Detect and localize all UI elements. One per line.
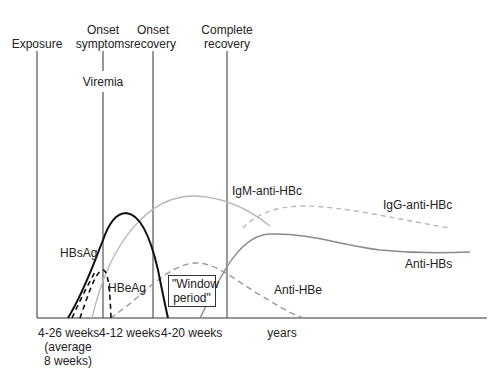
window-period-box: "Window period" — [168, 275, 216, 307]
onset-symptoms-label-line1: Onset — [74, 23, 132, 37]
interval-1-line3: 8 weeks) — [38, 354, 98, 368]
igg-anti-hbc-label: IgG-anti-HBc — [383, 198, 452, 212]
onset-recovery-label: Onset recovery — [128, 23, 178, 51]
complete-recovery-label: Complete recovery — [197, 23, 257, 51]
exposure-label: Exposure — [6, 37, 68, 51]
onset-symptoms-label-line2: symptoms — [74, 37, 132, 51]
interval-years: years — [262, 326, 302, 340]
hbeag-label: HBeAg — [108, 281, 146, 295]
window-period-line1: "Window — [172, 277, 212, 291]
hbeag-curve — [80, 270, 111, 318]
hbsag-label: HBsAg — [60, 246, 97, 260]
onset-symptoms-label: Onset symptoms — [74, 23, 132, 51]
window-period-line2: period" — [172, 291, 212, 305]
complete-recovery-label-line1: Complete — [197, 23, 257, 37]
interval-recovery-to-complete: 4-20 weeks — [161, 326, 219, 340]
interval-onset-to-recovery: 4-12 weeks — [99, 326, 157, 340]
anti-hbs-curve — [200, 234, 470, 318]
onset-recovery-label-line1: Onset — [128, 23, 178, 37]
interval-1-line1: 4-26 weeks — [38, 326, 98, 340]
hbeag-curve-outer — [72, 272, 95, 318]
complete-recovery-label-line2: recovery — [197, 37, 257, 51]
igm-anti-hbc-label: IgM-anti-HBc — [232, 184, 302, 198]
interval-exposure-to-onset: 4-26 weeks (average 8 weeks) — [38, 326, 98, 368]
anti-hbe-label: Anti-HBe — [274, 283, 322, 297]
anti-hbs-label: Anti-HBs — [405, 257, 452, 271]
viremia-label: Viremia — [80, 75, 126, 89]
onset-recovery-label-line2: recovery — [128, 37, 178, 51]
interval-1-line2: (average — [38, 340, 98, 354]
